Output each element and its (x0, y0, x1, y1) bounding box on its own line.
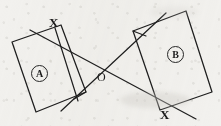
label-circled-a: A (31, 65, 48, 82)
diagram-canvas (0, 0, 221, 126)
label-x-top-left: X (49, 16, 58, 29)
label-o-intersection: O (97, 71, 106, 83)
label-x-bottom-right: X (160, 108, 169, 121)
label-circled-b: B (167, 46, 184, 63)
geometry-figure: X X O A B (0, 0, 221, 126)
transversal-line-one (30, 30, 196, 119)
